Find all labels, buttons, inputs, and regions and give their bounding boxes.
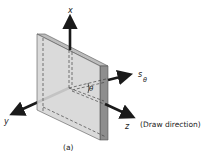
stress-element-diagram: x y z s θ θ (Draw direction) (a) xyxy=(0,0,221,164)
draw-direction-annotation: (Draw direction) xyxy=(140,120,201,129)
x-axis-label: x xyxy=(67,6,73,15)
s-theta-arrow xyxy=(108,75,128,80)
figure-caption: (a) xyxy=(63,143,74,152)
z-axis-arrow xyxy=(105,104,131,116)
s-theta-label: s xyxy=(138,70,142,79)
z-axis-label: z xyxy=(124,122,130,131)
s-theta-subscript: θ xyxy=(143,76,147,84)
plate xyxy=(37,34,108,140)
theta-angle-label: θ xyxy=(89,85,94,93)
y-axis-label: y xyxy=(3,117,9,126)
